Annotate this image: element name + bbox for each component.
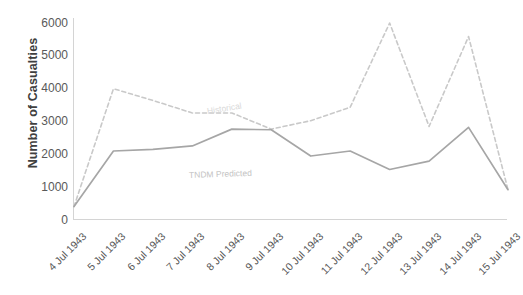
x-tick-label: 6 Jul 1943: [125, 230, 168, 273]
casualties-line-chart: Number of Casualties 6000 5000 4000 3000…: [0, 0, 523, 295]
x-tick-label: 14 Jul 1943: [436, 230, 483, 277]
x-axis-tick-labels: 4 Jul 19435 Jul 19436 Jul 19437 Jul 1943…: [0, 0, 523, 295]
x-tick-label: 8 Jul 1943: [204, 230, 247, 273]
x-tick-label: 10 Jul 1943: [278, 230, 325, 277]
x-tick-label: 5 Jul 1943: [85, 230, 128, 273]
x-tick-label: 7 Jul 1943: [164, 230, 207, 273]
x-tick-label: 4 Jul 1943: [46, 230, 89, 273]
